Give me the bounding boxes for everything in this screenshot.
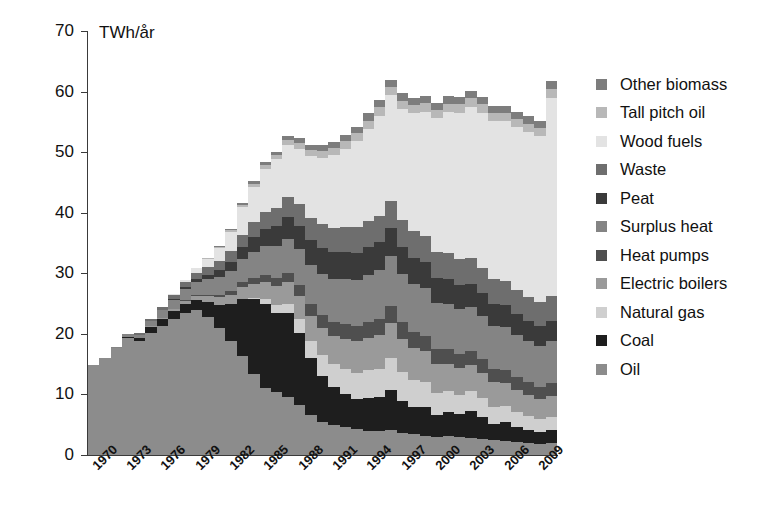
bar-segment [340, 252, 351, 279]
bar-segment [282, 304, 293, 314]
bar-segment [328, 252, 339, 279]
stacked-bar [271, 31, 282, 455]
bar-segment [294, 226, 305, 250]
bar-segment [408, 105, 419, 113]
bar-segment [385, 390, 396, 430]
stacked-bar [363, 31, 374, 455]
stacked-bar [374, 31, 385, 455]
bar-segment [214, 277, 225, 295]
legend-item[interactable]: Heat pumps [596, 241, 756, 270]
bar-segment [168, 300, 179, 309]
legend-swatch-icon [596, 136, 607, 147]
bar-segment [385, 201, 396, 228]
stacked-bar [294, 31, 305, 455]
bar-segment [122, 338, 133, 455]
stacked-bar [465, 31, 476, 455]
legend-item[interactable]: Peat [596, 184, 756, 213]
stacked-bar [385, 31, 396, 455]
bar-segment [488, 424, 499, 441]
stacked-bar [134, 31, 145, 455]
bar-segment [465, 307, 476, 351]
bar-segment [511, 290, 522, 314]
bar-segment [534, 128, 545, 136]
bar-segment [363, 113, 374, 120]
bar-segment [317, 376, 328, 422]
bar-segment [408, 98, 419, 105]
y-axis-tick-label: 50 [34, 143, 74, 160]
bar-segment [500, 383, 511, 406]
bar-segment [363, 247, 374, 275]
legend-item[interactable]: Natural gas [596, 298, 756, 327]
bar-segment [511, 412, 522, 427]
bar-segment [317, 151, 328, 158]
bar-segment [363, 221, 374, 247]
legend-swatch-icon [596, 307, 607, 318]
chart-legend: Other biomassTall pitch oilWood fuelsWas… [596, 70, 756, 384]
stacked-bar [191, 31, 202, 455]
bar-segment [443, 96, 454, 103]
bar-segment [317, 274, 328, 315]
bar-segment [351, 127, 362, 134]
stacked-bar [523, 31, 534, 455]
bar-segment [443, 304, 454, 349]
bar-segment [523, 124, 534, 132]
y-axis-tick-label: 10 [34, 385, 74, 402]
bar-segment [340, 279, 351, 324]
bar-segment [260, 169, 271, 213]
legend-item[interactable]: Oil [596, 355, 756, 384]
bar-segment [248, 299, 259, 374]
legend-item[interactable]: Waste [596, 156, 756, 185]
bar-segment [294, 149, 305, 205]
bar-segment [214, 261, 225, 270]
bar-segment [408, 407, 419, 435]
bar-segment [237, 235, 248, 248]
bar-segment [271, 286, 282, 305]
bar-segment [260, 229, 271, 247]
bar-segment [260, 212, 271, 228]
stacked-bar [225, 31, 236, 455]
bar-segment [351, 227, 362, 252]
bar-segment [374, 369, 385, 397]
bar-segment [237, 259, 248, 282]
legend-item[interactable]: Coal [596, 327, 756, 356]
bar-segment [305, 358, 316, 415]
bar-segment [202, 259, 213, 267]
bar-segment [294, 204, 305, 225]
bar-segment [420, 96, 431, 103]
bar-segment [500, 327, 511, 369]
bar-segment [225, 262, 236, 271]
bar-segment [408, 258, 419, 285]
stacked-bar [99, 31, 110, 455]
bar-segment [420, 236, 431, 262]
bar-segment [260, 246, 271, 275]
bar-segment [385, 323, 396, 358]
bar-segment [477, 113, 488, 268]
bar-segment [260, 304, 271, 388]
bar-segment [294, 285, 305, 296]
bar-segment [328, 155, 339, 228]
bar-segment [511, 390, 522, 412]
bar-segment [397, 247, 408, 274]
bar-segment [408, 332, 419, 348]
bar-segment [431, 252, 442, 278]
bar-segment [237, 207, 248, 234]
bar-segment [328, 148, 339, 155]
bar-segment [397, 322, 408, 338]
legend-item[interactable]: Electric boilers [596, 270, 756, 299]
bar-segment [134, 341, 145, 455]
legend-item[interactable]: Wood fuels [596, 127, 756, 156]
bar-segment [431, 364, 442, 393]
legend-item[interactable]: Surplus heat [596, 213, 756, 242]
y-axis-tick-label: 30 [34, 264, 74, 281]
legend-swatch-icon [596, 107, 607, 118]
legend-label: Tall pitch oil [620, 104, 705, 121]
bar-segment [397, 433, 408, 455]
bar-segment [168, 311, 179, 319]
legend-label: Wood fuels [620, 133, 702, 150]
bar-segment [351, 253, 362, 280]
bar-segment [523, 341, 534, 382]
legend-item[interactable]: Other biomass [596, 70, 756, 99]
bar-segment [374, 216, 385, 243]
bar-segment [191, 310, 202, 455]
legend-item[interactable]: Tall pitch oil [596, 99, 756, 128]
